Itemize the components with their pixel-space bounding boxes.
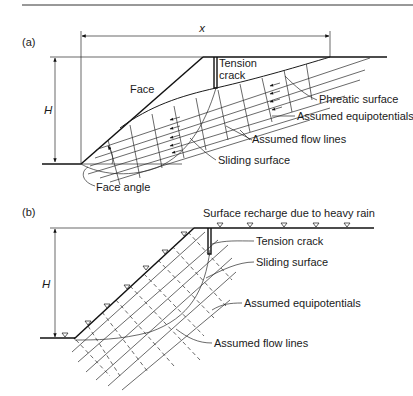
face-angle-label: Face angle — [96, 181, 150, 193]
tension-crack-b — [208, 228, 211, 254]
h-dimension-label: H — [44, 104, 53, 116]
panel-a-label: (a) — [22, 36, 35, 48]
sliding-surface-b — [75, 250, 210, 340]
sliding-surface-label-a: Sliding surface — [218, 154, 290, 166]
sliding-surface-label-b: Sliding surface — [256, 256, 328, 268]
tension-crack-label-b: Tension crack — [256, 235, 324, 247]
face-angle-leader — [83, 167, 95, 186]
panel-a: (a) x H — [22, 22, 413, 193]
tension-crack-label-2: crack — [219, 69, 246, 81]
sliding-surface-a — [81, 88, 216, 174]
flow-lines-label-a: Assumed flow lines — [252, 133, 347, 145]
panel-b: (b) Surface recharge due to heavy rain H — [22, 206, 375, 390]
surface-recharge-label: Surface recharge due to heavy rain — [203, 207, 375, 219]
equipotentials-label-b: Assumed equipotentials — [244, 297, 361, 309]
x-dimension-label: x — [198, 22, 206, 34]
flow-lines-label-b: Assumed flow lines — [214, 337, 309, 349]
phreatic-surface-label: Phreatic surface — [319, 93, 398, 105]
tension-crack — [214, 57, 217, 88]
slope-face-b — [74, 228, 194, 339]
tension-crack-label-1: Tension — [219, 57, 257, 69]
h-dimension-label-b: H — [42, 278, 51, 290]
panel-b-label: (b) — [22, 206, 35, 218]
face-label: Face — [130, 83, 154, 95]
equipotentials-label-a: Assumed equipotentials — [297, 110, 413, 122]
slope-seepage-diagram: (a) x H — [0, 0, 413, 396]
